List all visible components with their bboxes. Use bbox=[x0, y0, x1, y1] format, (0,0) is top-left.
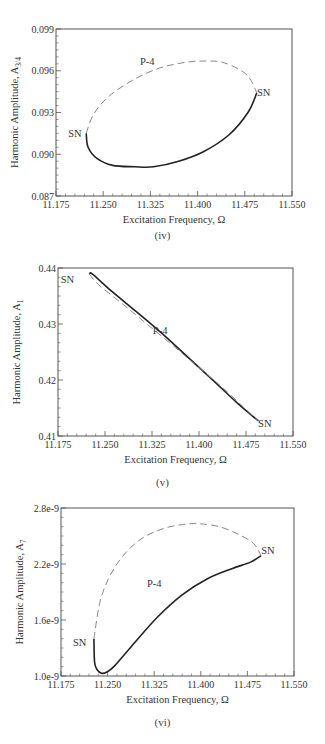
y-tick-label: 0.099 bbox=[32, 24, 55, 35]
x-tick-label: 11.250 bbox=[91, 439, 118, 450]
panel-caption: (iv) bbox=[0, 229, 325, 241]
chart-vi-plot: 11.17511.25011.32511.40011.47511.5501.0e… bbox=[0, 495, 325, 744]
chart-panel-vi: 11.17511.25011.32511.40011.47511.5501.0e… bbox=[0, 495, 325, 744]
x-axis-label: Excitation Frequency, Ω bbox=[123, 214, 226, 225]
y-tick-label: 2.2e-9 bbox=[34, 559, 59, 570]
stable-branch-curve bbox=[86, 93, 257, 167]
chart-iv-plot: 11.17511.25011.32511.40011.47511.5500.08… bbox=[0, 0, 325, 245]
x-tick-label: 11.550 bbox=[279, 439, 306, 450]
saddle-node-label: SN bbox=[261, 545, 275, 556]
x-tick-label: 11.400 bbox=[184, 199, 211, 210]
x-tick-label: 11.550 bbox=[280, 679, 307, 690]
y-tick-label: 0.44 bbox=[39, 263, 57, 274]
y-tick-label: 1.6e-9 bbox=[34, 615, 59, 626]
y-tick-label: 0.43 bbox=[39, 319, 57, 330]
branch-label: P-4 bbox=[147, 578, 162, 589]
saddle-node-label: SN bbox=[73, 637, 87, 648]
y-tick-label: 0.087 bbox=[32, 191, 55, 202]
y-axis-label: Harmonic Amplitude, A1 bbox=[11, 299, 25, 404]
y-tick-label: 0.41 bbox=[39, 431, 57, 442]
y-tick-label: 0.42 bbox=[39, 375, 57, 386]
x-tick-label: 11.400 bbox=[185, 439, 212, 450]
y-tick-label: 2.8e-9 bbox=[34, 503, 59, 514]
x-tick-label: 11.325 bbox=[137, 199, 164, 210]
plot-frame bbox=[61, 508, 294, 676]
plot-frame bbox=[58, 268, 293, 436]
branch-label: P-4 bbox=[153, 325, 168, 336]
saddle-node-label: SN bbox=[68, 128, 82, 139]
stable-branch-curve bbox=[94, 556, 261, 674]
x-tick-label: 11.475 bbox=[231, 199, 258, 210]
chart-panel-iv: 11.17511.25011.32511.40011.47511.5500.08… bbox=[0, 0, 325, 245]
x-tick-label: 11.475 bbox=[234, 679, 261, 690]
x-tick-label: 11.250 bbox=[94, 679, 121, 690]
x-tick-label: 11.475 bbox=[232, 439, 259, 450]
x-axis-label: Excitation Frequency, Ω bbox=[124, 454, 227, 465]
y-tick-label: 0.093 bbox=[32, 107, 55, 118]
x-tick-label: 11.400 bbox=[187, 679, 214, 690]
panel-caption: (vi) bbox=[0, 716, 325, 728]
y-tick-label: 1.0e-9 bbox=[34, 671, 59, 682]
x-tick-label: 11.250 bbox=[90, 199, 117, 210]
x-tick-label: 11.325 bbox=[141, 679, 168, 690]
saddle-node-label: SN bbox=[61, 274, 75, 285]
plot-frame bbox=[56, 29, 292, 196]
x-tick-label: 11.325 bbox=[138, 439, 165, 450]
y-tick-label: 0.090 bbox=[32, 149, 55, 160]
y-axis-label: Harmonic Amplitude, A7 bbox=[14, 539, 28, 644]
panel-caption: (v) bbox=[0, 476, 325, 488]
branch-label: P-4 bbox=[140, 56, 155, 67]
unstable-branch-curve bbox=[94, 523, 261, 638]
chart-panel-v: 11.17511.25011.32511.40011.47511.5500.41… bbox=[0, 245, 325, 495]
unstable-branch-curve bbox=[86, 61, 257, 133]
saddle-node-label: SN bbox=[258, 418, 272, 429]
saddle-node-label: SN bbox=[257, 87, 271, 98]
y-tick-label: 0.096 bbox=[32, 65, 55, 76]
x-tick-label: 11.550 bbox=[278, 199, 305, 210]
x-axis-label: Excitation Frequency, Ω bbox=[126, 694, 229, 705]
chart-v-plot: 11.17511.25011.32511.40011.47511.5500.41… bbox=[0, 245, 325, 495]
y-axis-label: Harmonic Amplitude, A3/4 bbox=[9, 57, 23, 168]
